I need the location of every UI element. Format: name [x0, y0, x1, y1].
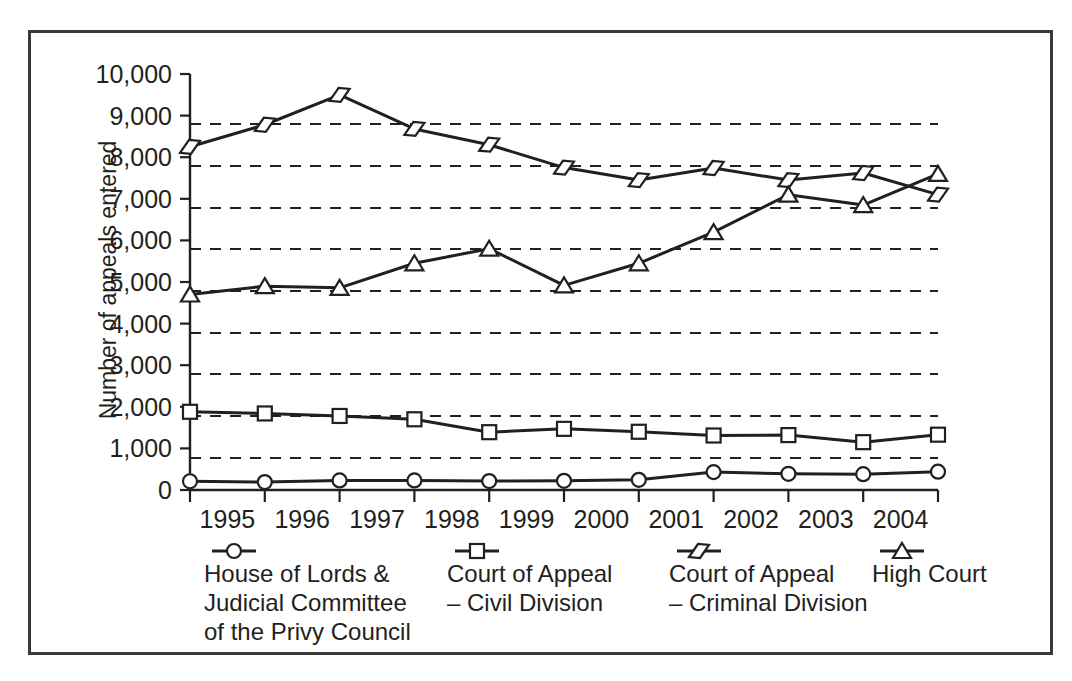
legend-label-0-2: of the Privy Council [204, 618, 411, 645]
data-point-2-9 [853, 166, 873, 180]
data-point-0-4 [482, 474, 496, 488]
chart-legend: House of Lords &Judicial Committeeof the… [204, 543, 987, 645]
y-tick-label-3000: 3,000 [109, 351, 172, 379]
legend-label-2-1: – Criminal Division [669, 589, 868, 616]
legend-item-0[interactable]: House of Lords &Judicial Committeeof the… [204, 544, 411, 645]
legend-label-0-0: House of Lords & [204, 560, 389, 587]
x-tick-label-2003: 2003 [798, 505, 854, 533]
data-point-0-7 [707, 465, 721, 479]
x-tick-label-1996: 1996 [274, 505, 330, 533]
y-tick-label-7000: 7,000 [109, 185, 172, 213]
y-tick-label-6000: 6,000 [109, 226, 172, 254]
data-point-1-6 [632, 425, 646, 439]
legend-label-1-1: – Civil Division [447, 589, 603, 616]
series-0 [183, 465, 945, 489]
data-point-1-7 [707, 429, 721, 443]
data-point-1-5 [557, 422, 571, 436]
y-tick-label-4000: 4,000 [109, 310, 172, 338]
legend-label-3-0: High Court [872, 560, 987, 587]
legend-item-3[interactable]: High Court [872, 543, 987, 587]
y-axis-ticks: 01,0002,0003,0004,0005,0006,0007,0008,00… [96, 60, 190, 504]
x-tick-label-1997: 1997 [349, 505, 405, 533]
data-point-1-9 [856, 435, 870, 449]
data-point-0-2 [333, 473, 347, 487]
data-series-layer [180, 88, 948, 489]
legend-marker-square [470, 544, 484, 558]
data-point-0-6 [632, 473, 646, 487]
y-tick-label-8000: 8,000 [109, 143, 172, 171]
data-point-1-2 [333, 409, 347, 423]
data-point-0-8 [781, 467, 795, 481]
legend-item-1[interactable]: Court of Appeal– Civil Division [447, 544, 612, 616]
x-axis-ticks: 1995199619971998199920002001200220032004 [190, 490, 938, 533]
x-tick-label-2002: 2002 [723, 505, 779, 533]
data-point-0-10 [931, 465, 945, 479]
x-tick-label-2000: 2000 [574, 505, 630, 533]
y-tick-label-1000: 1,000 [109, 434, 172, 462]
x-tick-label-2004: 2004 [873, 505, 929, 533]
legend-marker-circle [227, 544, 241, 558]
chart-svg: Number of appeals entered 01,0002,0003,0… [0, 0, 1072, 681]
data-point-2-0 [180, 140, 200, 154]
data-point-0-9 [856, 467, 870, 481]
legend-label-1-0: Court of Appeal [447, 560, 612, 587]
data-point-1-10 [931, 428, 945, 442]
data-point-2-1 [255, 118, 275, 132]
legend-label-2-0: Court of Appeal [669, 560, 834, 587]
y-tick-label-5000: 5,000 [109, 268, 172, 296]
x-tick-label-1998: 1998 [424, 505, 480, 533]
y-tick-label-0: 0 [158, 476, 172, 504]
data-point-2-7 [704, 161, 724, 175]
series-line-2 [190, 95, 938, 195]
data-point-1-0 [183, 405, 197, 419]
legend-marker-parallelogram [689, 544, 709, 558]
data-point-1-3 [407, 412, 421, 426]
series-1 [183, 405, 945, 449]
x-tick-label-2001: 2001 [648, 505, 704, 533]
data-point-0-1 [258, 475, 272, 489]
data-point-2-5 [554, 161, 574, 175]
data-point-1-4 [482, 425, 496, 439]
x-tick-label-1995: 1995 [200, 505, 256, 533]
data-point-2-6 [629, 173, 649, 187]
data-point-1-8 [781, 428, 795, 442]
data-point-2-4 [479, 138, 499, 152]
x-tick-label-1999: 1999 [499, 505, 555, 533]
y-tick-label-10000: 10,000 [96, 60, 172, 88]
data-point-2-10 [928, 188, 948, 202]
data-point-2-2 [330, 88, 350, 102]
series-2 [180, 88, 948, 202]
data-point-2-3 [404, 122, 424, 136]
data-point-1-1 [258, 406, 272, 420]
y-tick-label-9000: 9,000 [109, 102, 172, 130]
y-tick-label-2000: 2,000 [109, 393, 172, 421]
data-point-3-6 [630, 255, 648, 270]
data-point-0-3 [407, 473, 421, 487]
data-point-3-7 [705, 224, 723, 239]
data-point-0-0 [183, 474, 197, 488]
series-3 [181, 166, 947, 302]
legend-label-0-1: Judicial Committee [204, 589, 407, 616]
line-chart: Number of appeals entered 01,0002,0003,0… [0, 0, 1072, 681]
data-point-0-5 [557, 474, 571, 488]
data-point-3-10 [929, 166, 947, 181]
legend-item-2[interactable]: Court of Appeal– Criminal Division [669, 544, 868, 616]
